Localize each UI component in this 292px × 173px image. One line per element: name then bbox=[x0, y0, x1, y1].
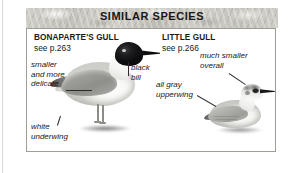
annotation-line: all gray bbox=[156, 80, 193, 90]
ground-shadow bbox=[71, 124, 139, 133]
annotation-line: overall bbox=[200, 61, 248, 71]
annotation-line: bill bbox=[131, 73, 150, 83]
annotation-line: white bbox=[31, 122, 68, 132]
gull-ear-spot bbox=[245, 91, 250, 95]
similar-species-figure: SIMILAR SPECIES BONAPARTE'S GULL see p.2… bbox=[0, 0, 292, 173]
gull-black-bill bbox=[139, 50, 160, 56]
gull-foot bbox=[99, 122, 106, 124]
illustration-little-gull bbox=[207, 82, 279, 140]
annotation-line: underwing bbox=[31, 132, 68, 142]
gull-eye-crescent bbox=[122, 49, 126, 52]
annotation-black-bill: black bill bbox=[131, 63, 150, 82]
gull-bill bbox=[260, 89, 275, 94]
page-edge-rule bbox=[2, 0, 3, 173]
leader-line-black-bill bbox=[128, 62, 129, 76]
annotation-line: and more bbox=[31, 70, 65, 80]
annotation-line: black bbox=[131, 63, 150, 73]
annotation-much-smaller-overall: much smaller overall bbox=[200, 51, 248, 70]
annotation-all-gray-upperwing: all gray upperwing bbox=[156, 80, 193, 99]
species-entry-little-gull: LITTLE GULL see p.266 bbox=[162, 33, 215, 53]
gull-leg bbox=[102, 105, 104, 122]
species-name-little-gull: LITTLE GULL bbox=[162, 33, 215, 42]
annotation-line: smaller bbox=[31, 60, 65, 70]
annotation-line: upperwing bbox=[156, 90, 193, 100]
annotation-smaller-and-more-delicate: smaller and more delicate bbox=[31, 60, 65, 89]
annotation-white-underwing: white underwing bbox=[31, 122, 68, 141]
illustration-bonapartes-gull bbox=[57, 40, 165, 138]
section-title: SIMILAR SPECIES bbox=[26, 10, 278, 22]
annotation-line: delicate bbox=[31, 79, 65, 89]
plumage-stroke bbox=[213, 116, 239, 117]
section-header-band: SIMILAR SPECIES bbox=[26, 8, 278, 28]
annotation-line: much smaller bbox=[200, 51, 248, 61]
gull-dark-eye-patch bbox=[252, 88, 260, 94]
gull-leg bbox=[97, 104, 99, 122]
leader-line-smaller-delicate bbox=[66, 90, 92, 91]
plumage-stroke bbox=[215, 119, 237, 120]
